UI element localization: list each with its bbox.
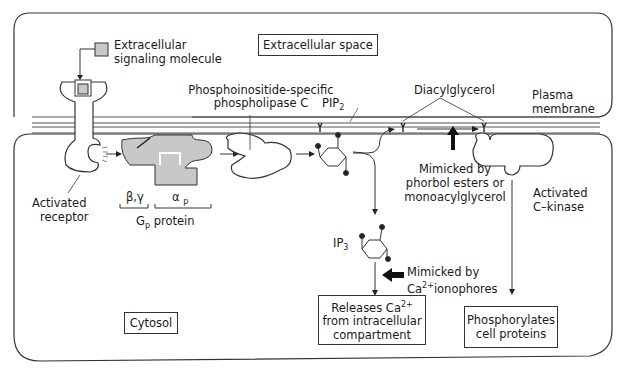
ionophore-arrow-icon — [382, 268, 404, 282]
ip3-ring-icon — [360, 225, 391, 262]
signaling-molecule-icon — [95, 43, 108, 56]
beta-gamma-label: β,γ — [126, 190, 144, 204]
phorbol-arrow-icon — [447, 126, 459, 150]
phorbol-label-2: phorbol esters or — [400, 176, 510, 190]
phorbol-label-3: monoacylglycerol — [400, 190, 510, 204]
signal-label-1: Extracellular — [114, 38, 186, 52]
receptor-label-2: receptor — [40, 210, 89, 224]
cytosol-label: Cytosol — [124, 312, 178, 334]
ckinase-label-1: Activated — [533, 186, 587, 200]
pip2-ring-icon — [316, 133, 349, 176]
membrane-label-1: Plasma — [532, 88, 573, 102]
ionophore-label-1: Mimicked by — [407, 265, 479, 279]
calcium-release-box: Releases Ca2+ from intracellular compart… — [318, 295, 426, 345]
alpha-label: α p — [172, 190, 188, 209]
receptor-label-1: Activated — [32, 196, 86, 210]
plasma-membrane — [32, 117, 600, 133]
gp-protein-label: Gp protein — [136, 214, 195, 233]
plc-label-2: phospholipase C — [186, 96, 336, 110]
plc-label-1: Phosphoinositide-specific — [186, 83, 336, 97]
pip2-label: PIP2 — [322, 96, 344, 115]
extracellular-space-label: Extracellular space — [258, 34, 378, 56]
phospholipase-c-icon — [227, 133, 292, 178]
signal-label-2: signaling molecule — [114, 52, 222, 66]
diacylglycerol-label: Diacylglycerol — [414, 83, 495, 97]
gp-protein-icon — [122, 135, 212, 185]
phosphorylation-box: Phosphorylates cell proteins — [464, 306, 558, 348]
ionophore-label-2: Ca2+ionophores — [407, 279, 498, 296]
phorbol-label-1: Mimicked by — [400, 162, 510, 176]
membrane-label-2: membrane — [532, 102, 595, 116]
ip3-label: IP3 — [333, 236, 348, 255]
ckinase-label-2: C–kinase — [533, 200, 584, 214]
